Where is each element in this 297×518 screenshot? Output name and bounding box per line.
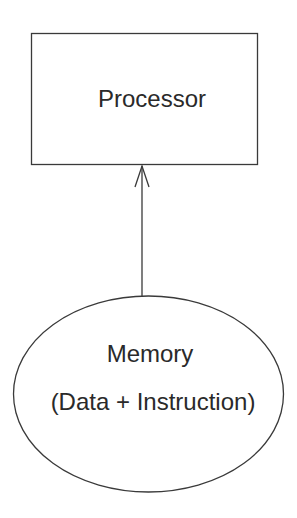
memory-node: Memory (Data + Instruction) — [14, 296, 284, 492]
memory-to-processor-arrow — [135, 166, 149, 296]
processor-node: Processor — [32, 34, 258, 165]
processor-label: Processor — [98, 85, 206, 112]
memory-label: Memory — [107, 340, 194, 367]
memory-sublabel: (Data + Instruction) — [51, 388, 256, 415]
diagram-canvas: Processor Memory (Data + Instruction) — [0, 0, 297, 518]
